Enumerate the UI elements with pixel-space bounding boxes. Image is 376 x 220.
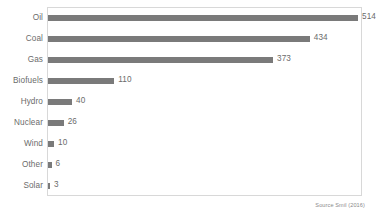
bar-with-value: 26 [48,120,77,126]
bar-value-label: 26 [68,118,77,126]
bar-value-label: 10 [58,139,67,147]
category-label: Oil [33,13,43,21]
bar-with-value: 10 [48,141,67,147]
bar [48,99,72,105]
bar-value-label: 373 [277,55,291,63]
bar [48,183,50,189]
bar-value-label: 434 [314,34,328,42]
bar-with-value: 434 [48,36,328,42]
bar-value-label: 3 [54,181,59,189]
bar-value-label: 40 [76,97,85,105]
bar [48,57,273,63]
bar-row: Hydro40 [0,91,369,112]
category-label: Other [22,160,43,168]
bar-row: Other6 [0,154,369,175]
bar-with-value: 110 [48,78,132,84]
category-label: Gas [28,55,43,63]
bar-row: Wind10 [0,133,369,154]
bar-value-label: 6 [56,160,61,168]
bar-with-value: 514 [48,15,376,21]
source-note: Source Smil (2016) [315,203,365,209]
category-label: Biofuels [13,76,43,84]
bar [48,162,52,168]
bar-row: Nuclear26 [0,112,369,133]
bar-value-label: 514 [362,13,376,21]
bar-row: Solar3 [0,175,369,196]
category-label: Solar [23,181,43,189]
bar [48,141,54,147]
bar-row: Oil514 [0,7,369,28]
category-label: Nuclear [14,118,43,126]
bar-value-label: 110 [118,76,131,84]
bar [48,36,310,42]
bar-with-value: 373 [48,57,291,63]
bar-with-value: 40 [48,99,85,105]
bar-row: Coal434 [0,28,369,49]
category-label: Wind [24,139,43,147]
bar-with-value: 6 [48,162,60,168]
bar-with-value: 3 [48,183,59,189]
bar [48,78,114,84]
bar-row: Gas373 [0,49,369,70]
bar [48,15,358,21]
bar [48,120,64,126]
bar-row: Biofuels110 [0,70,369,91]
category-label: Hydro [21,97,43,105]
category-label: Coal [26,34,43,42]
